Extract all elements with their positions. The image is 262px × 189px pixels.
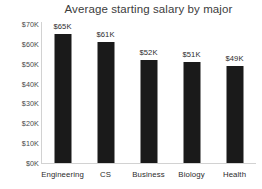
y-axis-tick-label: $70K xyxy=(3,20,39,29)
category-label: Health xyxy=(223,170,246,179)
y-axis-tick-label: $50K xyxy=(3,59,39,68)
x-axis-category-labels: EngineeringCSBusinessBiologyHealth xyxy=(41,0,256,189)
y-axis-tick-label: $30K xyxy=(3,99,39,108)
category-label: CS xyxy=(100,170,111,179)
y-axis-tick-label: $10K xyxy=(3,139,39,148)
category-label: Biology xyxy=(178,170,204,179)
y-axis-tick-label: $60K xyxy=(3,39,39,48)
y-axis-tick-labels: $0K$10K$20K$30K$40K$50K$60K$70K xyxy=(0,0,39,189)
category-label: Engineering xyxy=(41,170,84,179)
y-axis-tick-label: $40K xyxy=(3,79,39,88)
category-label: Business xyxy=(132,170,164,179)
bar-chart: Average starting salary by major $0K$10K… xyxy=(0,0,262,189)
y-axis-tick-label: $20K xyxy=(3,119,39,128)
y-axis-tick-label: $0K xyxy=(3,159,39,168)
